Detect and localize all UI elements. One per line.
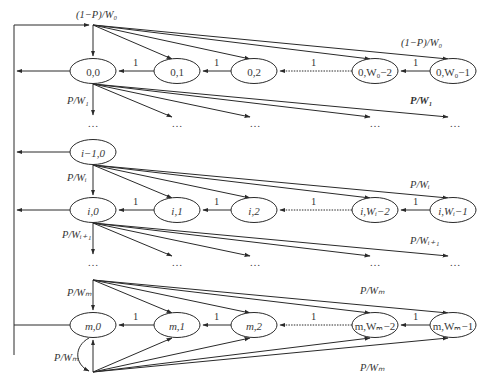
node-label: 0,W₀−1 [436, 66, 470, 78]
transition-label: 1 [311, 57, 316, 68]
ellipsis: … [250, 256, 261, 268]
node-label: 0,W₀−2 [358, 66, 392, 78]
state-node: 0,W₀−1 [430, 59, 476, 84]
state-node: m,2 [231, 313, 277, 338]
state-node: i,Wᵢ−2 [352, 198, 398, 223]
node-label: i−1,0 [81, 147, 106, 159]
entry-probability-label: P/Wₘ [66, 287, 92, 298]
ellipsis: … [88, 256, 99, 268]
transition-label: 1 [311, 196, 316, 207]
transition-label: 1 [133, 57, 138, 68]
state-node: 0,1 [154, 59, 200, 84]
ellipsis: … [450, 256, 461, 268]
node-label: i,Wᵢ−2 [360, 205, 390, 217]
markov-chain-diagram: 0,0 0,1 0,2 0,W₀−2 0,W₀−1 i−1,0 i,0 i,1 … [0, 0, 486, 388]
node-label: m,1 [169, 320, 185, 332]
loop-probability-label: P/Wₘ [53, 352, 79, 363]
exit-probability-label: P/W₁ [410, 95, 432, 106]
ellipsis: … [88, 117, 99, 129]
entry-probability-label: (1−P)/W₀ [76, 9, 117, 21]
entry-probability-label: P/Wᵢ [409, 179, 430, 190]
ellipsis: … [172, 256, 183, 268]
ellipsis-markers: … … … … … … … … … … [88, 117, 461, 268]
transition-label: 1 [413, 196, 418, 207]
ellipsis: … [172, 117, 183, 129]
exit-probability-label: P/Wᵢ₊₁ [409, 235, 439, 246]
node-label: 0,0 [86, 66, 100, 78]
node-label: i,0 [87, 205, 99, 217]
ellipsis: … [450, 117, 461, 129]
state-node: m,Wₘ−2 [352, 313, 398, 338]
transition-label: 1 [214, 311, 219, 322]
node-label: m,Wₘ−2 [355, 320, 395, 332]
transition-label: 1 [214, 196, 219, 207]
node-label: i,Wᵢ−1 [438, 205, 468, 217]
transition-label: 1 [311, 311, 316, 322]
transition-label: 1 [133, 311, 138, 322]
stage-i-minus-1-nodes: i−1,0 [70, 140, 116, 165]
exit-probability-label: P/Wₘ [359, 362, 385, 373]
transition-label: 1 [413, 57, 418, 68]
node-label: 0,1 [170, 66, 184, 78]
node-label: m,0 [85, 320, 102, 332]
node-label: m,2 [246, 320, 263, 332]
state-node: 0,2 [231, 59, 277, 84]
state-node: m,1 [154, 313, 200, 338]
state-node: i,1 [154, 198, 200, 223]
exit-probability-label: P/W₁ [66, 95, 89, 106]
transition-label: 1 [133, 196, 138, 207]
ellipsis: … [370, 256, 381, 268]
ellipsis: … [250, 117, 261, 129]
entry-probability-label: (1−P)/W₀ [401, 37, 442, 49]
state-node: m,Wₘ−1 [430, 313, 476, 338]
node-label: m,Wₘ−1 [433, 320, 473, 332]
transition-label: 1 [214, 57, 219, 68]
entry-probability-label: P/Wₘ [359, 285, 385, 296]
exit-probability-label: P/Wᵢ₊₁ [61, 229, 91, 240]
node-label: 0,2 [247, 66, 261, 78]
entry-probability-label: P/Wᵢ [66, 172, 87, 183]
state-node: m,0 [70, 313, 116, 338]
state-node: i−1,0 [70, 140, 116, 165]
node-label: i,1 [171, 205, 182, 217]
state-node: 0,W₀−2 [352, 59, 398, 84]
state-node: i,Wᵢ−1 [430, 198, 476, 223]
ellipsis: … [370, 117, 381, 129]
state-node: i,2 [231, 198, 277, 223]
chain-labels: 1 1 1 1 1 1 1 1 1 1 1 1 [133, 57, 418, 322]
node-label: i,2 [248, 205, 260, 217]
state-node: 0,0 [70, 59, 116, 84]
state-node: i,0 [70, 198, 116, 223]
transition-label: 1 [413, 311, 418, 322]
